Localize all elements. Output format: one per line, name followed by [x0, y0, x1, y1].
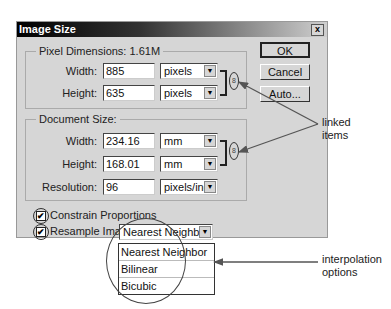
pixel-height-unit-select[interactable]: pixels ▼: [160, 85, 218, 101]
image-size-dialog: Image Size x Pixel Dimensions: 1.61M Wid…: [16, 21, 328, 238]
doc-height-label: Height:: [53, 158, 97, 170]
resolution-label: Resolution:: [35, 181, 97, 193]
interpolation-options-annotation: interpolation options: [322, 253, 382, 279]
document-size-legend: Document Size:: [36, 113, 120, 125]
resample-method-value: Nearest Neighbor: [123, 226, 209, 238]
doc-width-input[interactable]: 234.16: [103, 133, 155, 149]
doc-height-input[interactable]: 168.01: [103, 156, 155, 172]
close-button[interactable]: x: [311, 24, 324, 36]
resample-image-checkbox[interactable]: ✔: [36, 227, 46, 237]
linked-items-line1: linked: [322, 116, 351, 129]
link-bracket: [220, 70, 227, 96]
link-bracket: [220, 140, 227, 166]
chevron-down-icon[interactable]: ▼: [204, 135, 216, 147]
interpolation-line2: options: [322, 266, 382, 279]
pixel-dimensions-legend: Pixel Dimensions: 1.61M: [36, 45, 163, 57]
doc-height-unit-value: mm: [164, 158, 182, 170]
pixel-width-label: Width:: [53, 65, 97, 77]
interpolation-line1: interpolation: [322, 253, 382, 266]
chevron-down-icon[interactable]: ▼: [204, 181, 216, 193]
dropdown-option-bicubic[interactable]: Bicubic: [119, 278, 214, 294]
doc-height-unit-select[interactable]: mm ▼: [160, 156, 218, 172]
resample-method-select[interactable]: Nearest Neighbor ▼: [119, 224, 213, 240]
chevron-down-icon[interactable]: ▼: [204, 87, 216, 99]
chevron-down-icon[interactable]: ▼: [204, 158, 216, 170]
pixel-width-unit-select[interactable]: pixels ▼: [160, 63, 218, 79]
dropdown-option-bilinear[interactable]: Bilinear: [119, 261, 214, 278]
pixel-width-input[interactable]: 885: [103, 63, 155, 79]
constrain-proportions-checkbox[interactable]: ✔: [36, 211, 46, 221]
chevron-down-icon[interactable]: ▼: [204, 65, 216, 77]
constrain-proportions-label: Constrain Proportions: [50, 209, 156, 221]
pixel-height-input[interactable]: 635: [103, 85, 155, 101]
doc-width-unit-value: mm: [164, 135, 182, 147]
cancel-button[interactable]: Cancel: [260, 64, 310, 80]
resample-method-dropdown-list: Nearest Neighbor Bilinear Bicubic: [118, 243, 215, 295]
pixel-width-unit-value: pixels: [164, 65, 192, 77]
chevron-down-icon[interactable]: ▼: [199, 226, 211, 238]
dialog-title: Image Size: [19, 23, 76, 35]
resolution-unit-select[interactable]: pixels/inch ▼: [160, 179, 218, 195]
link-icon: 8: [229, 142, 239, 160]
linked-items-line2: items: [322, 129, 351, 142]
auto-button[interactable]: Auto...: [260, 86, 310, 102]
doc-width-unit-select[interactable]: mm ▼: [160, 133, 218, 149]
dropdown-option-nearest-neighbor[interactable]: Nearest Neighbor: [119, 244, 214, 261]
linked-items-annotation: linked items: [322, 116, 351, 142]
title-bar: Image Size x: [17, 22, 327, 37]
pixel-height-unit-value: pixels: [164, 87, 192, 99]
resolution-input[interactable]: 96: [103, 179, 155, 195]
ok-button[interactable]: OK: [260, 42, 310, 58]
pixel-height-label: Height:: [53, 87, 97, 99]
link-icon: 8: [229, 72, 239, 90]
doc-width-label: Width:: [53, 135, 97, 147]
